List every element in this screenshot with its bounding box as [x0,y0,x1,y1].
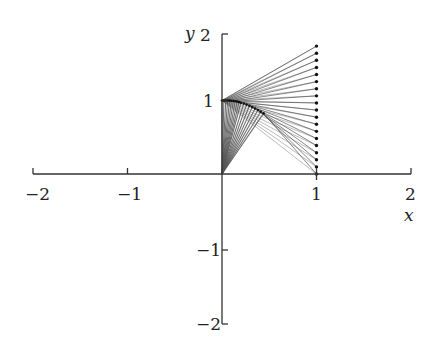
y-tick-label-1: 1 [203,91,214,111]
curve-point [259,110,262,113]
curve-point [248,104,251,107]
endpoint-dot [315,115,318,118]
y-axis [222,34,228,324]
segment [222,53,317,100]
endpoint-dot [315,144,318,147]
curve-point [242,102,245,105]
endpoint-dot [315,94,318,97]
curve-point [245,103,248,106]
endpoint-dot [315,158,318,161]
y-axis-label: y [184,23,195,43]
endpoint-dot [315,130,318,133]
y-tick-label-neg1: −1 [196,240,221,260]
endpoint-dot [315,52,318,55]
endpoint-dot [315,123,318,126]
endpoint-dot [315,80,318,83]
curve-point [254,107,257,110]
plot-canvas: −2 −1 1 2 x 2 y 1 −1 −2 [0,0,443,346]
endpoint-dot [315,87,318,90]
line-segments [222,46,317,174]
endpoint-dot [315,44,318,47]
curve-point [240,101,243,104]
x-tick-label-neg1: −1 [117,184,142,204]
endpoint-dot [315,73,318,76]
endpoint-dot [315,66,318,69]
x-axis-label: x [404,205,414,225]
endpoint-dot [315,59,318,62]
x-tick-label-1: 1 [311,184,322,204]
y-tick-label-neg2: −2 [196,314,221,334]
x-tick-label-neg2: −2 [25,184,50,204]
endpoint-dot [315,151,318,154]
endpoint-dot [315,137,318,140]
endpoint-dot [315,108,318,111]
curve-point [257,109,260,112]
x-tick-label-2: 2 [405,184,416,204]
y-tick-label-2: 2 [200,25,211,45]
curve-point [251,106,254,109]
endpoint-dot [315,101,318,104]
curve-point [262,112,265,115]
